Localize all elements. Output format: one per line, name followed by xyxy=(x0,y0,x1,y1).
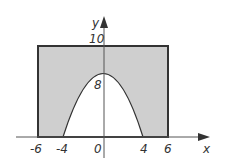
x-tick-0: 0 xyxy=(94,142,102,156)
y-axis-label: y xyxy=(91,16,100,30)
shaded-region xyxy=(38,46,168,137)
y-tick-10: 10 xyxy=(89,32,105,46)
x-axis-label: x xyxy=(202,142,211,156)
x-tick-neg6: -6 xyxy=(30,142,42,156)
x-tick-4: 4 xyxy=(140,142,148,156)
x-tick-neg4: -4 xyxy=(56,142,68,156)
y-axis-arrow-icon xyxy=(100,16,108,28)
x-tick-6: 6 xyxy=(164,142,172,156)
y-tick-8: 8 xyxy=(94,78,102,92)
x-axis-arrow-icon xyxy=(198,133,210,141)
diagram-canvas: x y -6 -4 0 4 6 10 8 xyxy=(0,0,229,164)
